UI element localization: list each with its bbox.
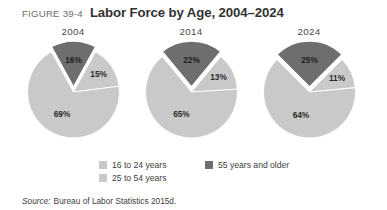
page-title: Labor Force by Age, 2004–2024 (90, 5, 284, 20)
legend-item-label: 55 years and older (218, 160, 289, 170)
pie-slice-label: 69% (54, 109, 71, 119)
pie-slice-label: 15% (90, 69, 107, 79)
figure-container: FIGURE 39-4 Labor Force by Age, 2004–202… (0, 0, 387, 210)
legend: 16 to 24 years 25 to 54 years 55 years a… (99, 160, 329, 186)
pie-slice-label: 16% (65, 55, 82, 65)
pie-slice-label: 25% (301, 55, 318, 65)
pie-chart-panel-2024: 2024 25%11%64% (250, 26, 368, 148)
legend-swatch-icon (99, 174, 107, 182)
legend-swatch-icon (99, 161, 107, 169)
pie-svg: 16%15%69% (23, 40, 124, 141)
source-text: Bureau of Labor Statistics 2015d. (54, 196, 177, 206)
pie-chart-2004: 16%15%69% (23, 40, 124, 141)
pie-chart-2024: 25%11%64% (259, 40, 360, 141)
legend-item-55-and-older: 55 years and older (205, 160, 289, 170)
panel-year-label: 2014 (132, 26, 250, 37)
figure-number: FIGURE 39-4 (22, 8, 83, 19)
pie-slice-label: 64% (293, 110, 310, 120)
pie-slice-label: 65% (173, 109, 190, 119)
source-note: Source:Bureau of Labor Statistics 2015d. (22, 190, 176, 208)
panel-year-label: 2024 (250, 26, 368, 37)
pie-svg: 22%13%65% (141, 40, 242, 141)
legend-item-label: 16 to 24 years (112, 160, 166, 170)
figure-title-row: FIGURE 39-4 Labor Force by Age, 2004–202… (22, 5, 284, 20)
pie-slice-label: 11% (329, 73, 346, 83)
source-label: Source: (22, 196, 51, 206)
legend-item-25-to-54: 25 to 54 years (99, 173, 166, 183)
pie-svg: 25%11%64% (259, 40, 360, 141)
panel-year-label: 2004 (14, 26, 132, 37)
pie-slice-label: 22% (183, 55, 200, 65)
legend-item-16-to-24: 16 to 24 years (99, 160, 166, 170)
charts-band: 2004 16%15%69% 2014 22%13%65% 2024 25%11… (0, 26, 387, 148)
pie-chart-panel-2014: 2014 22%13%65% (132, 26, 250, 148)
pie-chart-2014: 22%13%65% (141, 40, 242, 141)
legend-item-label: 25 to 54 years (112, 173, 166, 183)
pie-chart-panel-2004: 2004 16%15%69% (14, 26, 132, 148)
pie-slice-label: 13% (210, 72, 227, 82)
legend-swatch-icon (205, 161, 213, 169)
